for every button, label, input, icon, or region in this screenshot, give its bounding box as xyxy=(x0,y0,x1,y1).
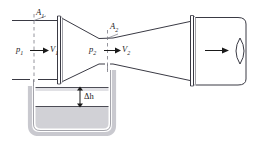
manometer-fluid xyxy=(36,88,109,129)
venturi-meter-figure: A1 A2 p1 V1 p2 V2 Δh xyxy=(0,0,255,141)
pipe-break-icon xyxy=(236,38,244,64)
outlet-flange xyxy=(191,16,196,87)
label-velocity-1: V1 xyxy=(50,45,58,56)
diffuser-top-wall xyxy=(113,22,190,39)
nozzle-top-wall xyxy=(63,19,100,39)
label-area-1: A1 xyxy=(36,8,44,19)
throat-top-wall xyxy=(99,38,113,39)
manometer-fluid-top-band xyxy=(36,88,109,91)
delta-h-dimension-arrow xyxy=(77,87,83,108)
label-area-2: A2 xyxy=(110,22,118,33)
label-velocity-2: V2 xyxy=(122,45,130,56)
outlet-flow-arrow-icon xyxy=(205,48,229,54)
diffuser-bottom-wall xyxy=(113,64,190,81)
inlet-flange xyxy=(58,16,63,84)
inlet-flow-arrow-icon xyxy=(30,48,49,54)
outlet-pipe xyxy=(196,18,247,86)
label-pressure-1: p1 xyxy=(16,45,23,56)
venturi-diagram-svg xyxy=(0,0,255,141)
label-pressure-2: p2 xyxy=(89,45,96,56)
throat-flow-arrow-icon xyxy=(104,48,121,54)
nozzle-bottom-wall xyxy=(63,64,100,82)
label-delta-h: Δh xyxy=(84,92,94,101)
